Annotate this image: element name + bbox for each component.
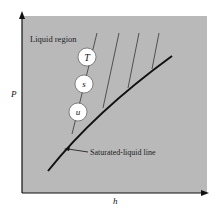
curve-label: Saturated-liquid line [90, 148, 156, 157]
region-label: Liquid region [30, 34, 77, 44]
y-axis-label: P [10, 89, 17, 99]
x-axis-label: h [113, 196, 118, 206]
circle-label-u: u [76, 107, 81, 117]
circle-label-s: s [82, 79, 86, 89]
y-axis-arrow-icon [19, 11, 25, 19]
p-h-diagram: T s u Liquid region Saturated-liquid lin… [0, 0, 219, 214]
